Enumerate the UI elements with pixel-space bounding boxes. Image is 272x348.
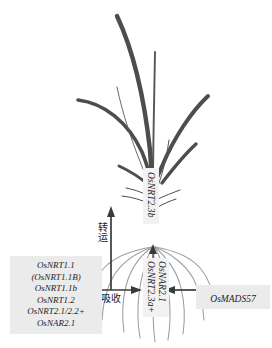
gene-item: OsNRT2.1/2.2+ <box>12 306 100 318</box>
transport-process-label: 转运 <box>96 222 106 242</box>
tiller-right-b <box>158 199 176 207</box>
regulator-gene-label: OsMADS57 <box>210 294 255 304</box>
uptake-process-label: 吸收 <box>101 294 121 304</box>
central-culm <box>153 52 155 186</box>
root-gene-label-group: OsNRT2.3a+ OsNAR2.1 <box>143 258 169 317</box>
gene-item: (OsNRT1.1B) <box>12 272 100 284</box>
regulator-gene-box: OsMADS57 <box>196 285 270 309</box>
uptake-gene-list: OsNRT1.1 (OsNRT1.1B) OsNRT1.1b OsNRT1.2 … <box>10 256 102 334</box>
tiller-right-a <box>158 190 180 199</box>
gene-item: OsNRT1.1 <box>12 260 100 272</box>
transport-arrow-head <box>107 206 115 217</box>
root-gene-label-2: OsNAR2.1 <box>156 261 167 313</box>
gene-item: OsNRT1.2 <box>12 295 100 307</box>
leaf-top-left-large <box>117 16 152 184</box>
leaf-left-long <box>78 100 152 185</box>
plant-nitrogen-transport-diagram: OsNRT2.3b OsNRT2.3a+ OsNAR2.1 转运 吸收 OsNR… <box>0 0 272 348</box>
shoot-gene-label: OsNRT2.3b <box>143 168 159 224</box>
root-gene-label-1: OsNRT2.3a+ <box>145 261 156 313</box>
gene-item: OsNAR2.1 <box>12 318 100 330</box>
gene-item: OsNRT1.1b <box>12 283 100 295</box>
